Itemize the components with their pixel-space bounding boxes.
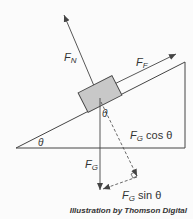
illustration-credit: Illustration by Thomson Digital (70, 206, 187, 215)
block-angle-label: θ (102, 109, 107, 119)
normal-force-label: FN (64, 52, 77, 65)
gravity-force-label: FG (85, 159, 98, 172)
incline-diagram (0, 0, 193, 219)
gravity-parallel-label: FG cos θ (130, 130, 172, 143)
gravity-sin-component (103, 177, 137, 189)
friction-force-label: FF (136, 57, 148, 70)
gravity-perp-label: FG sin θ (122, 190, 161, 203)
incline-angle-label: θ (38, 138, 43, 148)
